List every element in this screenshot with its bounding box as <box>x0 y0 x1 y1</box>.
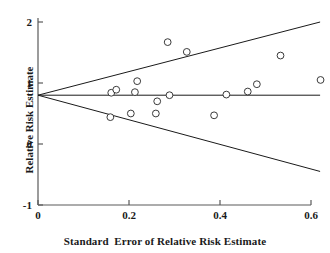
y-tick-label: -1 <box>10 200 32 211</box>
plot-canvas <box>0 0 330 253</box>
funnel-boundary-lines <box>38 22 320 171</box>
data-point-marker <box>152 110 159 117</box>
x-tick-label: 0.2 <box>122 210 136 221</box>
y-axis-title: Relative Risk Estimate <box>23 40 35 200</box>
x-axis-ticks <box>38 200 311 205</box>
data-point-marker <box>183 48 190 55</box>
lower-pseudo-confidence-limit <box>38 95 320 171</box>
data-point-marker <box>164 39 171 46</box>
data-point-marker <box>166 92 173 99</box>
data-point-marker <box>113 86 120 93</box>
x-tick-label: 0.4 <box>213 210 227 221</box>
data-point-marker <box>244 88 251 95</box>
data-point-marker <box>253 81 260 88</box>
data-point-marker <box>317 77 324 84</box>
data-point-marker <box>107 114 114 121</box>
axis-lines <box>38 18 311 205</box>
data-point-marker <box>277 52 284 59</box>
x-tick-label: 0 <box>35 210 41 221</box>
data-point-marker <box>132 89 139 96</box>
y-tick-label: 2 <box>10 17 32 28</box>
data-point-marker <box>154 98 161 105</box>
upper-pseudo-confidence-limit <box>38 22 320 95</box>
data-point-marker <box>127 110 134 117</box>
scatter-points-group <box>107 39 324 121</box>
data-point-marker <box>211 112 218 119</box>
data-point-marker <box>134 78 141 85</box>
funnel-plot-figure: 00.20.40.6-1012 Relative Risk Estimate S… <box>0 0 330 253</box>
data-point-marker <box>223 91 230 98</box>
x-axis-title: Standard Error of Relative Risk Estimate <box>0 235 330 247</box>
x-tick-label: 0.6 <box>304 210 318 221</box>
y-axis-ticks <box>38 22 43 205</box>
